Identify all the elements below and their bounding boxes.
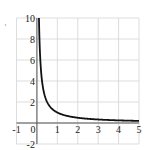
y-tick-label: -2 <box>27 139 35 150</box>
y-tick-label: 4 <box>30 76 35 87</box>
stray-dot <box>5 24 6 25</box>
curve-reciprocal <box>39 18 139 121</box>
x-tick-label: 3 <box>96 124 101 135</box>
x-tick-label: 4 <box>116 124 121 135</box>
x-tick-label: 5 <box>137 124 142 135</box>
y-tick-label: 2 <box>30 97 35 108</box>
x-tick-label: 0 <box>30 124 35 135</box>
y-tick-label: 8 <box>30 34 35 45</box>
x-tick-label: -1 <box>12 124 20 135</box>
x-tick-label: 2 <box>75 124 80 135</box>
x-tick-label: 1 <box>55 124 60 135</box>
y-tick-label: 6 <box>30 55 35 66</box>
curve-layer <box>39 18 139 121</box>
y-tick-label: 10 <box>25 13 35 24</box>
function-plot: -1012345-2246810 <box>0 0 149 150</box>
